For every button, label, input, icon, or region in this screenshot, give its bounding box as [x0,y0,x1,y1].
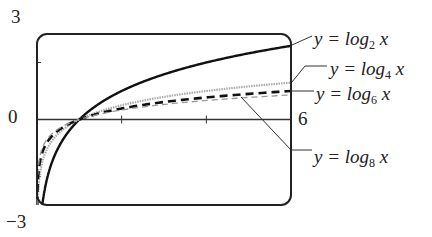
y-max-label: 3 [11,6,21,28]
leader-log4 [292,66,327,82]
curve-log4 [38,83,291,205]
curve-log2 [42,46,291,205]
y-min-label: −3 [6,211,26,233]
y-zero-label: 0 [8,106,18,128]
curve-log6 [37,91,291,205]
curve-log8 [37,95,291,205]
legend-log2: y = log2 x [314,28,388,53]
leader-log2 [292,36,312,45]
legend-log8: y = log8 x [314,146,388,171]
legend-log4: y = log4 x [330,58,404,83]
legend-log6: y = log6 x [316,83,390,108]
x-max-label: 6 [298,108,308,130]
plot-area [37,36,327,205]
